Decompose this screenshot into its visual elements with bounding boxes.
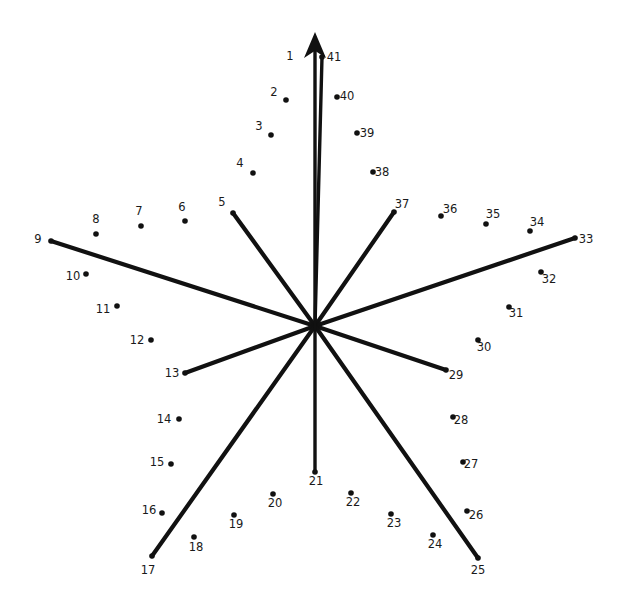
point-dot-4 xyxy=(250,170,256,176)
point-dot-5 xyxy=(230,210,236,216)
point-dot-33 xyxy=(572,235,578,241)
point-label-18: 18 xyxy=(189,540,204,554)
spoke-to-29 xyxy=(315,326,446,370)
point-dot-9 xyxy=(48,238,54,244)
point-label-34: 34 xyxy=(530,215,545,229)
radial-star-diagram: 1412403394385376367358349331032113112301… xyxy=(0,0,629,603)
point-label-13: 13 xyxy=(165,366,180,380)
point-label-38: 38 xyxy=(375,165,390,179)
point-label-31: 31 xyxy=(509,306,524,320)
point-dot-15 xyxy=(168,461,174,467)
point-label-22: 22 xyxy=(346,495,361,509)
spoke-to-9 xyxy=(51,241,315,326)
point-dot-16 xyxy=(159,510,165,516)
spoke-to-5 xyxy=(233,213,315,326)
point-label-19: 19 xyxy=(229,517,244,531)
point-label-37: 37 xyxy=(395,197,410,211)
point-label-16: 16 xyxy=(142,503,157,517)
point-label-24: 24 xyxy=(428,537,443,551)
point-label-6: 6 xyxy=(178,200,185,214)
point-label-26: 26 xyxy=(469,508,484,522)
point-dot-34 xyxy=(527,228,533,234)
point-label-36: 36 xyxy=(443,202,458,216)
point-dot-7 xyxy=(138,223,144,229)
point-dot-14 xyxy=(176,416,182,422)
point-label-35: 35 xyxy=(486,207,501,221)
point-label-27: 27 xyxy=(464,457,479,471)
point-label-30: 30 xyxy=(477,340,492,354)
point-dot-10 xyxy=(83,271,89,277)
point-dot-18 xyxy=(191,534,197,540)
point-label-25: 25 xyxy=(471,563,486,577)
spoke-to-33 xyxy=(315,238,575,326)
point-dot-2 xyxy=(283,97,289,103)
point-label-12: 12 xyxy=(130,333,145,347)
point-dot-35 xyxy=(483,221,489,227)
point-dot-11 xyxy=(114,303,120,309)
point-label-21: 21 xyxy=(309,474,324,488)
point-label-15: 15 xyxy=(150,455,165,469)
spoke-to-37 xyxy=(315,212,394,326)
spoke-to-13 xyxy=(185,326,315,373)
point-label-8: 8 xyxy=(92,212,99,226)
point-dot-6 xyxy=(182,218,188,224)
point-label-29: 29 xyxy=(449,368,464,382)
point-label-32: 32 xyxy=(542,272,557,286)
point-label-2: 2 xyxy=(270,85,277,99)
point-label-17: 17 xyxy=(141,563,156,577)
point-label-28: 28 xyxy=(454,413,469,427)
point-label-10: 10 xyxy=(66,269,81,283)
point-label-23: 23 xyxy=(387,516,402,530)
point-dot-12 xyxy=(148,337,154,343)
point-dot-41 xyxy=(319,54,325,60)
point-label-14: 14 xyxy=(157,412,172,426)
point-label-4: 4 xyxy=(236,156,243,170)
point-label-41: 41 xyxy=(327,50,342,64)
point-label-3: 3 xyxy=(255,119,262,133)
point-label-33: 33 xyxy=(579,232,594,246)
point-dot-17 xyxy=(149,553,155,559)
point-label-11: 11 xyxy=(96,302,111,316)
point-dot-25 xyxy=(475,555,481,561)
point-label-40: 40 xyxy=(340,89,355,103)
point-label-9: 9 xyxy=(34,232,41,246)
point-label-39: 39 xyxy=(360,126,375,140)
point-label-5: 5 xyxy=(218,195,225,209)
point-label-7: 7 xyxy=(135,204,142,218)
point-dot-3 xyxy=(268,132,274,138)
point-label-1: 1 xyxy=(286,49,293,63)
point-dot-13 xyxy=(182,370,188,376)
figure-canvas: 1412403394385376367358349331032113112301… xyxy=(0,0,629,603)
point-dot-8 xyxy=(93,231,99,237)
point-label-20: 20 xyxy=(268,496,283,510)
